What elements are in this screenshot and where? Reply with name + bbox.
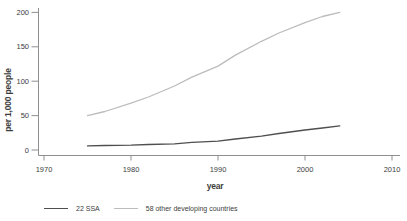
- y-tick-label: 100: [16, 77, 29, 86]
- legend-item-ssa: 22 SSA: [44, 205, 100, 212]
- legend-label-other-developing: 58 other developing countries: [146, 205, 238, 212]
- x-tick-label: 2000: [297, 165, 314, 174]
- y-tick-label: 0: [25, 146, 29, 155]
- legend-label-ssa: 22 SSA: [76, 205, 100, 212]
- y-tick-label: 50: [21, 111, 29, 120]
- series-line-other-developing: [88, 12, 340, 115]
- legend-item-other-developing: 58 other developing countries: [114, 205, 238, 212]
- legend: 22 SSA 58 other developing countries: [44, 205, 252, 212]
- x-tick-label: 1970: [36, 165, 53, 174]
- series-line-ssa: [88, 126, 340, 146]
- y-tick-label: 200: [16, 8, 29, 17]
- x-tick-label: 2010: [384, 165, 401, 174]
- x-tick-label: 1980: [123, 165, 140, 174]
- y-axis-title: per 1,000 people: [3, 68, 13, 131]
- x-tick-label: 1990: [210, 165, 227, 174]
- x-axis-title: year: [207, 181, 224, 191]
- legend-line-swatch-other-developing: [114, 208, 138, 209]
- y-tick-label: 150: [16, 42, 29, 51]
- plot-area: 05010015020019701980199020002010: [0, 0, 407, 221]
- legend-line-swatch-ssa: [44, 208, 68, 209]
- line-chart-figure: 05010015020019701980199020002010 per 1,0…: [0, 0, 407, 221]
